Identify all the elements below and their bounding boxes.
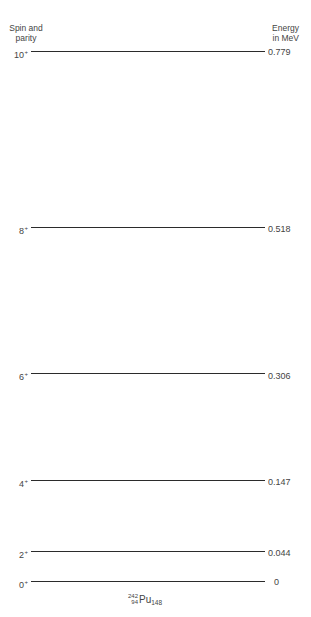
- level-line: [31, 581, 265, 582]
- spin-label: 8+: [19, 222, 28, 237]
- level-line: [31, 51, 265, 52]
- energy-value: 0: [274, 576, 279, 588]
- level-0plus: 0+ 0: [0, 576, 311, 588]
- neutron-number: 148: [151, 599, 162, 606]
- energy-header-line1: Energy: [249, 23, 299, 33]
- spin-label: 10+: [14, 46, 28, 61]
- spin-label: 4+: [19, 475, 28, 490]
- level-line: [31, 227, 265, 228]
- spin-label: 6+: [19, 368, 28, 383]
- nuclide-label: 242 94 Pu 148: [128, 593, 162, 605]
- energy-value: 0.518: [268, 223, 291, 235]
- element-symbol: Pu: [139, 594, 151, 605]
- spin-parity-header-line1: Spin and: [4, 23, 48, 33]
- spin-parity-header-line2: parity: [4, 33, 48, 43]
- spin-label: 0+: [19, 576, 28, 591]
- level-6plus: 6+ 0.306: [0, 368, 311, 380]
- level-8plus: 8+ 0.518: [0, 222, 311, 234]
- level-line: [31, 551, 265, 552]
- level-2plus: 2+ 0.044: [0, 546, 311, 558]
- spin-label: 2+: [19, 546, 28, 561]
- level-line: [31, 373, 265, 374]
- spin-parity-header: Spin and parity: [4, 23, 48, 43]
- nuclide-numbers: 242 94: [128, 593, 138, 605]
- level-4plus: 4+ 0.147: [0, 475, 311, 487]
- energy-header: Energy in MeV: [249, 23, 299, 43]
- energy-value: 0.306: [268, 370, 291, 382]
- energy-value: 0.044: [268, 547, 291, 559]
- energy-value: 0.147: [268, 476, 291, 488]
- atomic-number: 94: [128, 599, 138, 605]
- energy-header-line2: in MeV: [249, 33, 299, 43]
- level-line: [31, 480, 265, 481]
- energy-value: 0.779: [268, 46, 291, 58]
- level-10plus: 10+ 0.779: [0, 46, 311, 58]
